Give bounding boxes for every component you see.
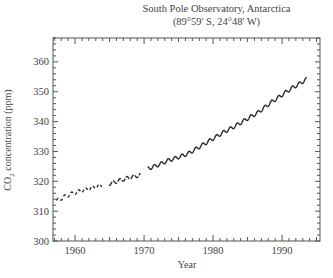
co2-line <box>148 77 307 169</box>
y-axis-label-main: CO <box>2 177 13 191</box>
chart-subtitle: (89°59' S, 24°48' W) <box>100 16 333 28</box>
x-axis-label: Year <box>178 259 196 270</box>
x-tick-label: 1980 <box>203 245 224 256</box>
y-axis-label-rest: concentration (ppm) <box>2 89 13 173</box>
y-tick-label: 360 <box>33 56 49 67</box>
chart-title: South Pole Observatory, Antarctica <box>100 3 333 15</box>
y-tick-label: 310 <box>33 206 49 217</box>
x-axis-ticks: 1960197019801990 <box>54 38 316 256</box>
y-tick-label: 300 <box>33 236 49 247</box>
co2-line <box>56 184 101 200</box>
x-tick-label: 1970 <box>134 245 155 256</box>
plot-frame <box>53 38 320 241</box>
y-tick-label: 350 <box>33 86 49 97</box>
x-tick-label: 1990 <box>272 245 293 256</box>
y-axis-label-subscript: 2 <box>8 173 16 177</box>
chart-canvas: 300310320330340350360 1960197019801990 <box>0 0 333 278</box>
y-tick-label: 330 <box>33 146 49 157</box>
y-axis-ticks: 300310320330340350360 <box>33 38 320 247</box>
y-axis-label: CO2 concentration (ppm) <box>2 89 16 190</box>
y-tick-label: 320 <box>33 176 49 187</box>
co2-line <box>109 173 141 185</box>
co2-series <box>56 77 306 200</box>
y-tick-label: 340 <box>33 116 49 127</box>
x-tick-label: 1960 <box>65 245 86 256</box>
